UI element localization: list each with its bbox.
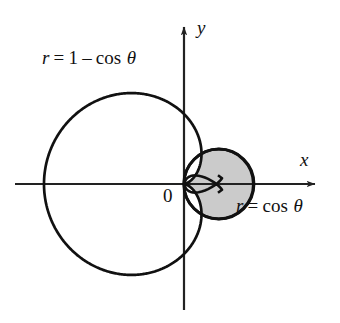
circle-r-symbol: r [236, 195, 243, 216]
cardioid-minus-sign: – [82, 47, 92, 68]
origin-label: 0 [163, 186, 173, 205]
circle-equation-label: r=cosθ [236, 196, 303, 215]
cardioid-equation-label: r=1–cosθ [42, 48, 136, 67]
cardioid-theta-symbol: θ [127, 47, 136, 68]
y-axis-label: y [197, 18, 205, 37]
x-axis-label: x [300, 150, 308, 169]
cardioid-equals-sign: = [54, 47, 65, 68]
circle-cos-function: cos [262, 195, 287, 216]
circle-equals-sign: = [248, 195, 259, 216]
cardioid-cos-function: cos [96, 47, 121, 68]
cardioid-one-term: 1 [68, 47, 78, 68]
cardioid-r-symbol: r [42, 47, 49, 68]
circle-theta-symbol: θ [293, 195, 302, 216]
